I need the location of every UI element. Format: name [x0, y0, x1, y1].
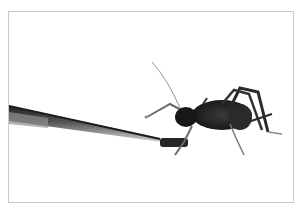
tweezers	[9, 106, 188, 147]
photo	[0, 0, 300, 214]
